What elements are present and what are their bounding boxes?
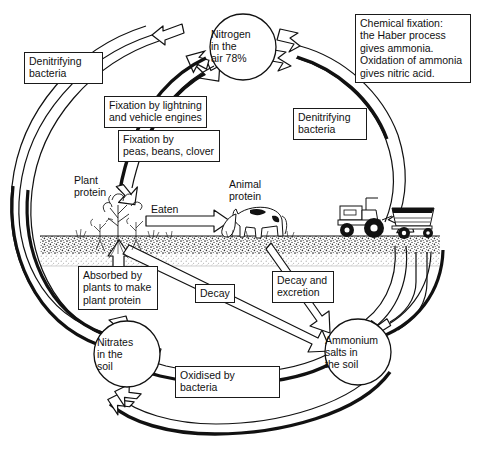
box-denitrifying-bacteria-left: Denitrifying bacteria bbox=[24, 52, 103, 84]
box-decay-and-excretion: Decay and excretion bbox=[272, 271, 334, 303]
nitrogen-cycle-diagram: Nitrogen in the air 78% Nitrates in the … bbox=[0, 0, 479, 457]
node-label-nitrogen-in-air: Nitrogen in the air 78% bbox=[211, 28, 281, 65]
node-label-nitrates-in-soil: Nitrates in the soil bbox=[97, 336, 161, 373]
label-eaten: Eaten bbox=[151, 203, 193, 215]
label-animal-protein: Animal protein bbox=[229, 178, 279, 203]
cow-illustration bbox=[222, 207, 294, 238]
box-decay: Decay bbox=[195, 284, 235, 303]
box-chemical-fixation: Chemical fixation: the Haber process giv… bbox=[355, 14, 471, 83]
box-denitrifying-bacteria-right: Denitrifying bacteria bbox=[293, 108, 367, 140]
label-plant-protein: Plant protein bbox=[74, 174, 122, 199]
box-absorbed-by-plants: Absorbed by plants to make plant protein bbox=[78, 266, 158, 310]
box-oxidised-by-bacteria: Oxidised by bacteria bbox=[175, 366, 280, 398]
tractor-illustration bbox=[338, 198, 384, 238]
box-fixation-by-lightning: Fixation by lightning and vehicle engine… bbox=[104, 96, 207, 128]
box-fixation-by-legumes: Fixation by peas, beans, clover bbox=[118, 130, 220, 162]
node-label-ammonium-salts-in-soil: Ammonium salts in the soil bbox=[325, 334, 395, 371]
